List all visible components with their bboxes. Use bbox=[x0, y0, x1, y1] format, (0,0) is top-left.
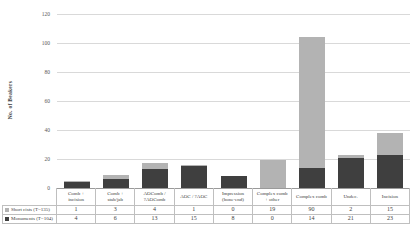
y-axis-ticks: 020406080100120 bbox=[0, 14, 53, 188]
table-value-cell: 0 bbox=[253, 215, 292, 224]
table-value-cell: 14 bbox=[292, 215, 331, 224]
y-tick-label: 80 bbox=[30, 69, 50, 75]
gridline bbox=[57, 72, 410, 73]
y-tick-label: 100 bbox=[30, 40, 50, 46]
table-value-cell: 4 bbox=[135, 206, 174, 215]
bar-segment bbox=[260, 160, 286, 188]
bar-segment bbox=[221, 176, 247, 188]
y-tick-label: 40 bbox=[30, 127, 50, 133]
bar-segment bbox=[181, 165, 207, 166]
gridline bbox=[57, 14, 410, 15]
gridline bbox=[57, 43, 410, 44]
bar-segment bbox=[64, 181, 90, 182]
table-value-cell: 19 bbox=[253, 206, 292, 215]
category-header-cell: Impression (bone-end) bbox=[214, 188, 253, 206]
bar-segment bbox=[103, 179, 129, 188]
y-tick-label: 20 bbox=[30, 156, 50, 162]
legend-label-text: Short cists (T=135) bbox=[11, 207, 50, 213]
bar-segment bbox=[299, 168, 325, 188]
category-header-cell: Incision bbox=[371, 188, 410, 206]
bar-segment bbox=[377, 133, 403, 155]
table-value-cell: 15 bbox=[175, 215, 214, 224]
table-value-cell: 90 bbox=[292, 206, 331, 215]
bar-segment bbox=[338, 158, 364, 188]
chart-figure: No. of Beakers 020406080100120 Comb + in… bbox=[0, 0, 414, 232]
category-header-cell: AOComb / ?AOComb bbox=[135, 188, 174, 206]
table-value-cell: 6 bbox=[96, 215, 135, 224]
table-value-cell: 15 bbox=[371, 206, 410, 215]
gridline bbox=[57, 130, 410, 131]
bar-segment bbox=[377, 155, 403, 188]
category-header-cell: Complex comb bbox=[292, 188, 331, 206]
legend-row-label: Short cists (T=135) bbox=[2, 206, 57, 215]
bar-segment bbox=[103, 175, 129, 179]
bar-segment bbox=[338, 155, 364, 158]
table-value-cell: 1 bbox=[175, 206, 214, 215]
category-header-cell: Comb + incision bbox=[57, 188, 96, 206]
y-tick-label: 60 bbox=[30, 98, 50, 104]
bar-segment bbox=[299, 37, 325, 168]
plot-area bbox=[57, 14, 410, 188]
legend-swatch bbox=[5, 217, 9, 221]
table-value-cell: 1 bbox=[57, 206, 96, 215]
bar-segment bbox=[142, 163, 168, 169]
table-value-cell: 21 bbox=[332, 215, 371, 224]
category-header-cell: Undec. bbox=[332, 188, 371, 206]
data-table: Comb + incisionComb + stab/jabAOComb / ?… bbox=[2, 188, 410, 224]
category-header-cell: Comb + stab/jab bbox=[96, 188, 135, 206]
category-header-cell: Complex comb + other bbox=[253, 188, 292, 206]
category-header-cell: AOC / ?AOC bbox=[175, 188, 214, 206]
bar-segment bbox=[181, 166, 207, 188]
table-value-cell: 0 bbox=[214, 206, 253, 215]
table-corner-cell bbox=[2, 188, 57, 206]
legend-label-text: Monuments (T=104) bbox=[11, 216, 53, 222]
gridline bbox=[57, 101, 410, 102]
table-value-cell: 4 bbox=[57, 215, 96, 224]
y-tick-label: 120 bbox=[30, 11, 50, 17]
legend-swatch bbox=[5, 208, 9, 212]
table-value-cell: 13 bbox=[135, 215, 174, 224]
table-value-cell: 2 bbox=[332, 206, 371, 215]
table-value-cell: 3 bbox=[96, 206, 135, 215]
table-value-cell: 8 bbox=[214, 215, 253, 224]
table-value-cell: 23 bbox=[371, 215, 410, 224]
legend-row-label: Monuments (T=104) bbox=[2, 215, 57, 224]
bar-segment bbox=[142, 169, 168, 188]
